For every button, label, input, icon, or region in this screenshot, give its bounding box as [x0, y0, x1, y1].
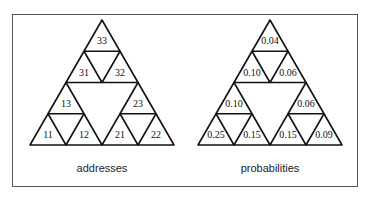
- cell-label-21: 0.15: [279, 129, 297, 140]
- cell-label-32: 0.06: [279, 67, 297, 78]
- probabilities-caption: probabilities: [195, 162, 345, 174]
- probability-triangle: 0.250.150.100.150.090.060.100.060.04: [198, 20, 342, 145]
- addresses-caption: addresses: [27, 162, 177, 174]
- cell-label-11: 11: [43, 129, 53, 140]
- cell-label-22: 0.09: [315, 129, 333, 140]
- cell-label-23: 0.06: [297, 98, 315, 109]
- cell-label-13: 0.10: [225, 98, 243, 109]
- cell-label-23: 23: [133, 98, 143, 109]
- cell-label-12: 0.15: [243, 129, 261, 140]
- cell-label-13: 13: [61, 98, 71, 109]
- cell-label-11: 0.25: [207, 129, 225, 140]
- cell-label-22: 22: [151, 129, 161, 140]
- cell-label-21: 21: [115, 129, 125, 140]
- cell-label-33: 0.04: [261, 35, 279, 46]
- cell-label-32: 32: [115, 67, 125, 78]
- cell-label-12: 12: [79, 129, 89, 140]
- cell-label-33: 33: [97, 35, 107, 46]
- address-triangle: 111213212223313233: [30, 20, 174, 145]
- cell-label-31: 0.10: [243, 67, 261, 78]
- cell-label-31: 31: [79, 67, 89, 78]
